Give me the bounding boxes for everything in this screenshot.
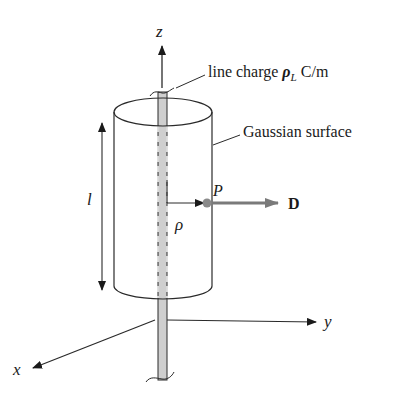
gaussian-surface-leader (213, 135, 240, 145)
diagram-graphics (0, 0, 402, 403)
rho-l-symbol: ρ (282, 63, 290, 80)
point-p-label: P (213, 182, 223, 200)
line-charge-units: C/m (297, 63, 329, 80)
radius-arrow (167, 180, 204, 203)
point-p-marker (203, 199, 212, 208)
line-charge-leader (176, 75, 205, 88)
line-charge-text: line charge (208, 63, 282, 80)
gaussian-surface-label: Gaussian surface (243, 123, 352, 141)
diagram-canvas: z line charge ρL C/m Gaussian surface l … (0, 0, 402, 403)
y-axis (167, 320, 316, 322)
y-axis-label: y (324, 312, 332, 332)
x-axis-label: x (13, 360, 21, 380)
length-label: l (87, 190, 92, 210)
field-d-label: D (288, 195, 300, 213)
line-charge-rod (146, 88, 174, 382)
line-charge-label: line charge ρL C/m (208, 63, 328, 83)
x-axis (33, 320, 155, 368)
radius-label: ρ (175, 215, 183, 235)
z-axis-label: z (156, 22, 163, 42)
